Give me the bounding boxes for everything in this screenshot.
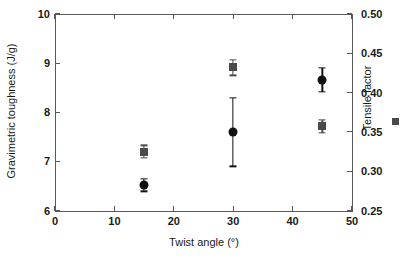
- y-tick-label-left: 10: [38, 9, 50, 20]
- x-tick-label: 0: [52, 216, 58, 227]
- y-axis-right-title: Tensile factor: [361, 38, 373, 158]
- x-axis-title: Twist angle (°): [55, 236, 353, 248]
- data-point-square: [229, 63, 237, 71]
- data-point-circle: [318, 75, 327, 84]
- x-tick-top: [114, 14, 115, 19]
- y-tick-right: [347, 171, 352, 172]
- y-tick-left: [55, 112, 60, 113]
- x-tick-label: 40: [286, 216, 298, 227]
- error-bar-cap-lower: [230, 166, 237, 167]
- y-tick-label-left: 9: [44, 58, 50, 69]
- error-bar-cap-lower: [319, 91, 326, 92]
- y-tick-right: [347, 131, 352, 132]
- y-tick-label-left: 6: [44, 205, 50, 216]
- x-axis-line: [55, 211, 353, 212]
- x-tick: [114, 206, 115, 211]
- error-bar-cap-upper: [319, 119, 326, 120]
- y-tick-left: [55, 161, 60, 162]
- x-tick-top: [173, 14, 174, 19]
- data-point-circle: [140, 180, 149, 189]
- x-tick-label: 20: [168, 216, 180, 227]
- x-tick-top: [351, 14, 352, 19]
- y-tick-right: [347, 53, 352, 54]
- error-bar-cap-lower: [319, 132, 326, 133]
- data-point-square: [318, 122, 326, 130]
- x-tick-top: [292, 14, 293, 19]
- x-tick-label: 50: [346, 216, 358, 227]
- chart-figure: 6789100.250.300.350.400.450.500102030405…: [0, 0, 411, 263]
- y-axis-left-title: Gravimetric toughness (J/g): [5, 16, 17, 206]
- x-tick: [173, 206, 174, 211]
- error-bar-cap-upper: [230, 59, 237, 60]
- x-tick-top: [54, 14, 55, 19]
- x-tick: [233, 206, 234, 211]
- y-axis-right-line: [352, 14, 353, 211]
- plot-area: [55, 14, 352, 211]
- y-tick-right: [347, 92, 352, 93]
- x-tick: [351, 206, 352, 211]
- error-bar-cap-upper: [230, 97, 237, 98]
- y-tick-label-left: 8: [44, 107, 50, 118]
- error-bar-cap-lower: [141, 157, 148, 158]
- error-bar-cap-lower: [141, 191, 148, 192]
- x-tick-label: 30: [227, 216, 239, 227]
- x-tick: [54, 206, 55, 211]
- legend-marker-square: [392, 118, 399, 125]
- top-frame-line: [55, 14, 353, 15]
- x-tick-top: [233, 14, 234, 19]
- error-bar-cap-upper: [319, 67, 326, 68]
- y-tick-left: [55, 13, 60, 14]
- error-bar-cap-upper: [141, 145, 148, 146]
- y-tick-left: [55, 63, 60, 64]
- y-tick-label-right: 0.50: [361, 9, 382, 20]
- x-tick: [292, 206, 293, 211]
- error-bar-cap-lower: [230, 75, 237, 76]
- data-point-circle: [229, 127, 238, 136]
- y-tick-label-right: 0.25: [361, 205, 382, 216]
- data-point-square: [140, 148, 148, 156]
- y-tick-label-right: 0.30: [361, 166, 382, 177]
- y-tick-label-left: 7: [44, 156, 50, 167]
- x-tick-label: 10: [108, 216, 120, 227]
- error-bar-cap-upper: [141, 178, 148, 179]
- y-tick-left: [55, 210, 60, 211]
